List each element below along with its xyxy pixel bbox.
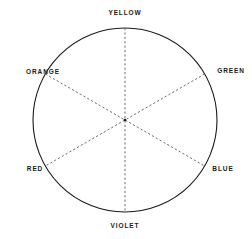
label-orange: ORANGE (26, 69, 60, 76)
label-blue: BLUE (212, 166, 233, 173)
label-violet: VIOLET (111, 223, 140, 230)
color-wheel-svg (0, 0, 252, 239)
label-yellow: YELLOW (108, 10, 141, 17)
label-green: GREEN (217, 68, 245, 75)
color-wheel-diagram: YELLOW ORANGE GREEN RED BLUE VIOLET (0, 0, 252, 239)
label-red: RED (27, 166, 43, 173)
center-point-dot (124, 119, 127, 122)
